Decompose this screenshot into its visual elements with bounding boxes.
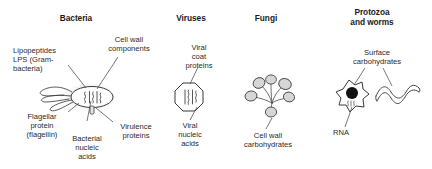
label-fungi-cell-wall-carbohydrates: Cell wall carbohydrates — [228, 131, 308, 149]
label-lipopeptides-lps: Lipopeptides LPS (Gram- bacteria) — [13, 46, 81, 74]
virulence-protein-stub — [90, 106, 94, 114]
protozoa-illustration — [336, 68, 420, 127]
fungi-illustration — [244, 75, 295, 129]
label-bacterial-nucleic-acids: Bacterial nucleic acids — [60, 134, 114, 162]
pathogen-pamp-diagram: Bacteria Viruses Fungi Protozoa and worm… — [0, 0, 432, 169]
worm-body — [376, 85, 420, 103]
worm-head-cap — [419, 88, 420, 92]
fungi-bud-bottom — [265, 107, 276, 117]
leader-fungi-cell-wall-carbs — [266, 118, 272, 129]
label-viral-nucleic-acids: Viral nucleic acids — [169, 121, 211, 149]
amoeba-nucleus — [346, 87, 358, 99]
virus-illustration — [175, 67, 203, 120]
label-cell-wall-components: Cell wall components — [96, 35, 162, 53]
worm-tail-cap — [376, 96, 377, 101]
virus-capsid — [175, 83, 203, 111]
label-virulence-proteins: Virulence proteins — [111, 122, 161, 140]
leader-surface-carbs-worm — [383, 68, 392, 86]
label-surface-carbohydrates: Surface carbohydrates — [334, 48, 420, 66]
label-rna: RNA — [324, 128, 358, 137]
label-viral-coat-proteins: Viral coat proteins — [178, 43, 220, 71]
fungi-buds — [244, 75, 295, 117]
leader-surface-carbs-amoeba — [354, 68, 365, 85]
